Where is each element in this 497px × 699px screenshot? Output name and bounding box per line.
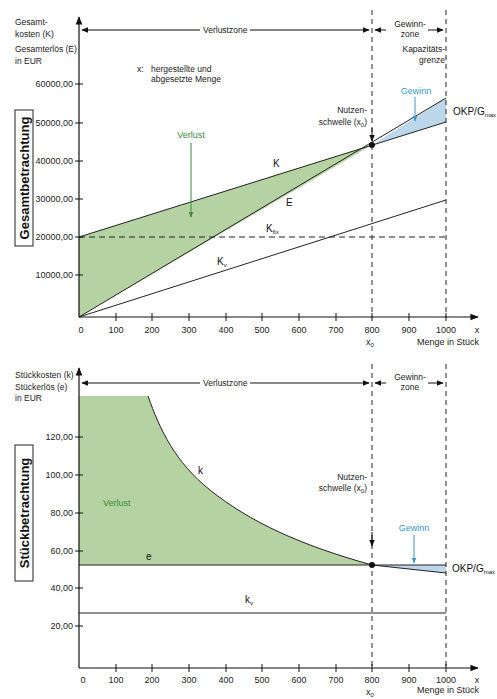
svg-text:50000,00: 50000,00	[35, 118, 73, 128]
bottom-loss-label: Verlust	[103, 498, 131, 508]
svg-text:30000,00: 30000,00	[35, 194, 73, 204]
svg-text:0: 0	[78, 325, 83, 335]
top-x-tick-labels: 0 100 200 300 400 500 600 700 800 900 10…	[78, 325, 479, 348]
svg-text:Stückerlös (e): Stückerlös (e)	[15, 382, 68, 392]
svg-text:40000,00: 40000,00	[35, 156, 73, 166]
svg-text:800: 800	[364, 675, 379, 685]
svg-text:60,00: 60,00	[50, 546, 73, 556]
svg-text:Nutzen-: Nutzen-	[337, 105, 367, 115]
svg-text:600: 600	[291, 325, 306, 335]
top-gain-label: Gewinn	[401, 86, 432, 96]
svg-text:schwelle (x0): schwelle (x0)	[319, 483, 367, 494]
svg-text:700: 700	[328, 325, 343, 335]
svg-text:0: 0	[80, 675, 85, 685]
svg-text:300: 300	[181, 325, 196, 335]
svg-text:x: x	[475, 325, 480, 335]
top-side-title: Gesamtbetrachtung	[15, 110, 33, 246]
label-K: K	[273, 158, 280, 169]
bottom-loss-area	[79, 396, 372, 565]
top-y-axis-label: Gesamt- kosten (K) Gesamterlös (E) in EU…	[15, 17, 77, 66]
svg-text:100: 100	[108, 325, 123, 335]
top-breakeven-point	[369, 142, 375, 148]
svg-text:Kapazitäts-: Kapazitäts-	[402, 44, 445, 54]
bottom-x-tick-labels: 0 100 200 300 400 500 600 700 800 900 10…	[80, 675, 479, 698]
svg-text:400: 400	[218, 675, 233, 685]
svg-text:1000: 1000	[436, 675, 456, 685]
svg-text:Gewinn-: Gewinn-	[394, 372, 426, 382]
svg-text:Stückkosten (k): Stückkosten (k)	[15, 370, 74, 380]
svg-text:600: 600	[291, 675, 306, 685]
svg-text:in EUR: in EUR	[15, 393, 42, 403]
svg-text:100: 100	[108, 675, 123, 685]
top-x0-label: x0	[366, 337, 375, 348]
svg-text:10000,00: 10000,00	[35, 270, 73, 280]
svg-text:500: 500	[254, 675, 269, 685]
top-chart: 10000,00 20000,00 30000,00 40000,00 5000…	[15, 10, 496, 348]
svg-text:700: 700	[328, 675, 343, 685]
svg-text:Nutzen-: Nutzen-	[337, 472, 367, 482]
k-total-cost-line	[79, 122, 446, 237]
svg-text:zone: zone	[401, 29, 420, 39]
svg-text:100,00: 100,00	[45, 470, 73, 480]
svg-text:200: 200	[144, 325, 159, 335]
svg-text:800: 800	[364, 325, 379, 335]
svg-text:Gewinn-: Gewinn-	[394, 19, 426, 29]
bottom-gain-label: Gewinn	[399, 523, 430, 533]
bottom-y-axis-label: Stückkosten (k) Stückerlös (e) in EUR	[15, 370, 74, 403]
svg-text:60000,00: 60000,00	[35, 79, 73, 89]
top-zone-arrows: Verlustzone Gewinn- zone	[82, 19, 443, 39]
svg-text:Verlustzone: Verlustzone	[203, 25, 248, 35]
break-even-figure: 10000,00 20000,00 30000,00 40000,00 5000…	[0, 0, 497, 699]
svg-text:120,00: 120,00	[45, 432, 73, 442]
svg-text:500: 500	[254, 325, 269, 335]
svg-text:900: 900	[401, 325, 416, 335]
svg-text:Gesamt-: Gesamt-	[15, 17, 48, 27]
bottom-side-title: Stückbetrachtung	[15, 445, 33, 581]
bottom-breakeven-point	[369, 562, 375, 568]
label-kv: kv	[245, 594, 253, 606]
label-e: e	[146, 551, 152, 562]
svg-text:Menge in Stück: Menge in Stück	[417, 337, 480, 347]
svg-text:Stückbetrachtung: Stückbetrachtung	[17, 458, 32, 569]
svg-text:1000: 1000	[436, 325, 456, 335]
top-note: x: hergestellte und abgesetzte Menge	[137, 64, 221, 84]
svg-text:20000,00: 20000,00	[35, 232, 73, 242]
svg-text:80,00: 80,00	[50, 508, 73, 518]
svg-text:abgesetzte Menge: abgesetzte Menge	[151, 74, 221, 84]
bottom-chart: 20,00 40,00 60,00 80,00 100,00 120,00 0 …	[15, 364, 495, 698]
bottom-x0-label: x0	[366, 687, 375, 698]
svg-text:x: x	[475, 675, 480, 685]
top-okp-label: OKP/Gmax	[453, 106, 496, 118]
svg-text:grenze: grenze	[419, 55, 445, 65]
svg-text:zone: zone	[401, 382, 420, 392]
svg-text:20,00: 20,00	[50, 621, 73, 631]
bottom-okp-label: OKP/Gmax	[452, 563, 495, 575]
svg-text:400: 400	[218, 325, 233, 335]
svg-text:hergestellte und: hergestellte und	[151, 64, 212, 74]
svg-text:kosten (K): kosten (K)	[15, 29, 54, 39]
top-loss-label: Verlust	[177, 130, 205, 140]
bottom-y-tick-labels: 20,00 40,00 60,00 80,00 100,00 120,00	[45, 432, 73, 631]
svg-text:Menge in Stück: Menge in Stück	[417, 685, 480, 695]
label-k: k	[198, 465, 204, 476]
svg-text:300: 300	[181, 675, 196, 685]
svg-text:x:: x:	[137, 64, 144, 74]
label-Kfix: Kfix	[266, 223, 279, 235]
label-E: E	[286, 197, 293, 208]
e-revenue-line	[79, 98, 446, 317]
svg-text:40,00: 40,00	[50, 583, 73, 593]
svg-text:Verlustzone: Verlustzone	[203, 378, 248, 388]
bottom-zone-arrows: Verlustzone Gewinn- zone	[82, 372, 443, 392]
svg-text:schwelle (x0): schwelle (x0)	[319, 117, 367, 128]
svg-text:900: 900	[401, 675, 416, 685]
label-Kv: Kv	[217, 256, 227, 268]
top-y-tick-labels: 10000,00 20000,00 30000,00 40000,00 5000…	[35, 79, 73, 280]
svg-text:in EUR: in EUR	[15, 56, 42, 66]
svg-text:Gesamtbetrachtung: Gesamtbetrachtung	[17, 117, 32, 240]
svg-text:200: 200	[144, 675, 159, 685]
svg-text:Gesamterlös (E): Gesamterlös (E)	[15, 44, 77, 54]
top-breakeven-label: Nutzen- schwelle (x0)	[319, 105, 375, 148]
